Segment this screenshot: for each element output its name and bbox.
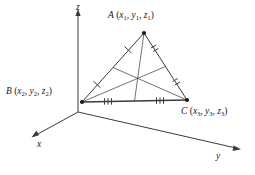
vertex-label-A-y-sub: 1 bbox=[136, 14, 139, 21]
vertex-label-A-z: z bbox=[144, 10, 148, 20]
vertex-label-A-close-paren: ) bbox=[151, 10, 154, 20]
triangle-sides bbox=[82, 33, 187, 102]
vertex-label-A-x: x bbox=[119, 10, 123, 20]
vertex-label-C-z-sub: 3 bbox=[221, 110, 224, 117]
vertex-label-B-close-paren: ) bbox=[49, 86, 52, 96]
vertex-label-C-x-sub: 3 bbox=[197, 110, 200, 117]
vertex-label-C-close-paren: ) bbox=[224, 106, 227, 116]
y-axis-arrowhead bbox=[233, 146, 241, 151]
vertex-label-B-y-sub: 2 bbox=[34, 90, 37, 97]
vertex-label-B-x: x bbox=[17, 86, 21, 96]
geometry-figure: A (x1, y1, z1) B (x2, y2, z2) C (x3, y3,… bbox=[0, 0, 255, 175]
vertex-label-B-z: z bbox=[42, 86, 46, 96]
y-axis-label: y bbox=[216, 152, 220, 162]
vertex-label-B-z-sub: 2 bbox=[46, 90, 49, 97]
vertex-label-B: B (x2, y2, z2) bbox=[6, 87, 52, 97]
vertex-dots bbox=[80, 31, 189, 104]
vertex-label-C-y-sub: 3 bbox=[209, 110, 212, 117]
vertex-label-A-z-sub: 1 bbox=[148, 14, 151, 21]
vertex-dot-C bbox=[185, 98, 189, 102]
vertex-label-B-x-sub: 2 bbox=[22, 90, 25, 97]
median-from-A bbox=[135, 33, 145, 101]
x-axis-arrowhead bbox=[32, 131, 40, 138]
x-axis-label: x bbox=[37, 140, 41, 150]
x-axis-line bbox=[36, 112, 78, 135]
vertex-dot-A bbox=[142, 31, 146, 35]
vertex-dot-B bbox=[80, 100, 84, 104]
vertex-label-A-x-sub: 1 bbox=[124, 14, 127, 21]
z-axis-label: z bbox=[76, 3, 80, 13]
axis-group bbox=[32, 9, 242, 151]
vertex-label-C: C (x3, y3, z3) bbox=[181, 107, 227, 117]
y-axis-line bbox=[78, 112, 236, 148]
vertex-label-A: A (x1, y1, z1) bbox=[108, 11, 154, 21]
